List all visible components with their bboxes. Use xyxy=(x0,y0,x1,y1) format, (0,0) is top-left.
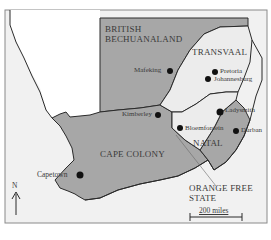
label-kimberley: Kimberley xyxy=(122,111,152,118)
label-pretoria: Pretoria xyxy=(220,68,242,75)
city-dot-kimberley xyxy=(155,112,161,118)
city-dot-bloemfontein xyxy=(177,125,183,131)
label-natal: NATAL xyxy=(193,139,223,148)
label-johannesburg: Johannesburg xyxy=(214,76,252,83)
city-dot-johannesburg xyxy=(205,76,211,82)
label-durban: Durban xyxy=(241,127,262,134)
label-british-bechuanaland-1: BRITISH xyxy=(105,25,141,34)
scale-label: 200 miles xyxy=(199,207,228,215)
city-dot-durban xyxy=(233,128,239,134)
compass-label: N xyxy=(12,182,17,190)
label-transvaal: TRANSVAAL xyxy=(192,48,247,57)
label-ladysmith: Ladysmith xyxy=(225,107,255,114)
label-orange-free-state-1: ORANGE FREE xyxy=(189,184,253,193)
city-dot-ladysmith xyxy=(217,109,224,116)
city-dot-mafeking xyxy=(167,68,173,74)
label-british-bechuanaland-2: BECHUANALAND xyxy=(105,35,182,44)
city-dot-capetown xyxy=(77,172,84,179)
label-bloemfontein: Bloemfontein xyxy=(185,125,224,132)
label-cape-colony: CAPE COLONY xyxy=(100,150,165,159)
label-mafeking: Mafeking xyxy=(134,67,161,74)
label-capetown: Capetown xyxy=(37,171,67,179)
label-orange-free-state-2: STATE xyxy=(189,194,216,203)
